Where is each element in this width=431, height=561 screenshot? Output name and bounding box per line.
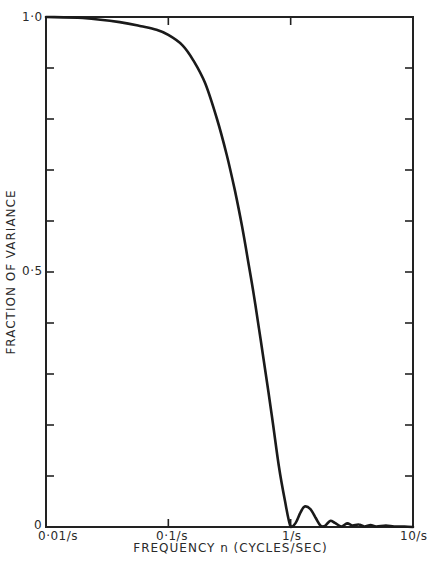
y-axis-title: FRACTION OF VARIANCE xyxy=(4,189,18,354)
variance-curve xyxy=(46,17,413,527)
axis-ticks xyxy=(46,17,413,527)
plot-frame xyxy=(46,17,413,527)
y-tick-label-1: 1·0 xyxy=(22,10,43,24)
x-axis-title: FREQUENCY n (CYCLES/SEC) xyxy=(0,541,431,555)
chart-canvas xyxy=(0,0,431,561)
y-tick-label-0-5: 0·5 xyxy=(22,264,43,278)
